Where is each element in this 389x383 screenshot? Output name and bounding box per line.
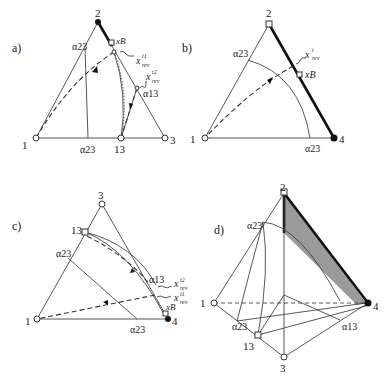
- svg-text:4: 4: [172, 315, 178, 327]
- svg-text:t: t: [312, 47, 314, 53]
- svg-text:α23: α23: [232, 321, 247, 332]
- diagram-figure: a) 2 1 3 13 α23 α23 α13 xB x t: [0, 0, 389, 383]
- svg-text:α13: α13: [342, 321, 357, 332]
- svg-text:α23: α23: [80, 144, 95, 155]
- panel-c: c) 3 1 4 13 α23 α23 α13 xB x t2 rev x t1…: [12, 189, 188, 335]
- svg-text:α23: α23: [233, 48, 248, 59]
- svg-text:α13: α13: [149, 274, 164, 285]
- svg-text:c): c): [12, 219, 21, 233]
- vertex-2-filled: [95, 19, 101, 25]
- svg-text:x: x: [173, 278, 179, 289]
- svg-text:x: x: [173, 292, 179, 303]
- svg-text:2: 2: [280, 181, 286, 193]
- svg-text:1: 1: [190, 133, 196, 145]
- svg-text:4: 4: [373, 300, 379, 312]
- svg-text:rev: rev: [152, 78, 160, 84]
- svg-text:x: x: [145, 71, 151, 82]
- svg-text:d): d): [214, 223, 224, 237]
- svg-text:α23: α23: [305, 143, 320, 154]
- svg-text:1: 1: [25, 315, 31, 327]
- svg-text:t2: t2: [152, 69, 157, 75]
- panel-a: a) 2 1 3 13 α23 α23 α13 xB x t: [12, 7, 176, 155]
- svg-text:13: 13: [243, 340, 255, 352]
- svg-text:3: 3: [280, 362, 286, 374]
- panel-d: d) 2 1 4 3 13 α23 α23 α13: [200, 181, 379, 374]
- svg-text:3: 3: [170, 134, 176, 146]
- svg-text:2: 2: [95, 7, 101, 19]
- svg-text:rev: rev: [312, 55, 320, 61]
- svg-text:xB: xB: [115, 36, 126, 46]
- svg-text:α23: α23: [56, 248, 71, 259]
- svg-text:α13: α13: [143, 88, 158, 99]
- svg-text:t2: t2: [180, 277, 185, 283]
- panel-a-label: a): [12, 41, 21, 55]
- svg-text:α23: α23: [72, 41, 87, 52]
- svg-text:rev: rev: [142, 62, 150, 68]
- svg-text:xB: xB: [165, 302, 176, 312]
- svg-text:x: x: [135, 55, 141, 66]
- svg-text:b): b): [182, 41, 192, 55]
- svg-text:xB: xB: [304, 69, 316, 80]
- svg-text:α23: α23: [247, 220, 262, 231]
- svg-text:13: 13: [114, 143, 126, 155]
- svg-text:1: 1: [22, 139, 28, 151]
- svg-text:3: 3: [98, 189, 104, 201]
- svg-text:t1: t1: [180, 291, 185, 297]
- svg-text:x: x: [304, 49, 310, 60]
- svg-text:4: 4: [339, 133, 345, 145]
- svg-text:2: 2: [266, 7, 272, 19]
- svg-text:13: 13: [71, 224, 83, 236]
- svg-text:rev: rev: [180, 299, 188, 305]
- svg-text:1: 1: [200, 297, 206, 309]
- svg-text:t1: t1: [142, 53, 147, 59]
- panel-b: b) 2 1 4 α23 α23 xB x t rev: [182, 7, 345, 154]
- svg-text:α23: α23: [130, 324, 145, 335]
